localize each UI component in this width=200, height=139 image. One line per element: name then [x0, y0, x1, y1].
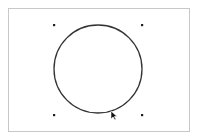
canvas-overlay — [0, 0, 200, 139]
arrow-pointer-icon — [111, 111, 117, 120]
resize-handle[interactable] — [53, 24, 55, 26]
circle-shape[interactable] — [54, 25, 142, 113]
resize-handle[interactable] — [141, 24, 143, 26]
resize-handle[interactable] — [53, 114, 55, 116]
resize-handle[interactable] — [141, 114, 143, 116]
